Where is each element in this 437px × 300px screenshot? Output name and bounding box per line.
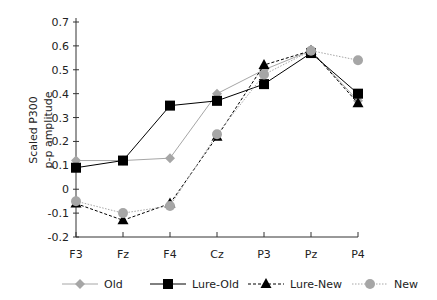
legend-label: Old bbox=[104, 278, 123, 291]
x-tick-label: F3 bbox=[69, 248, 82, 261]
x-tick-label: Fz bbox=[117, 248, 129, 261]
y-axis-label-line: Scaled P300 bbox=[27, 96, 40, 164]
y-tick-label: 0.7 bbox=[52, 16, 70, 29]
series-new bbox=[71, 46, 363, 218]
series-lure-old bbox=[71, 48, 363, 173]
circle-marker bbox=[259, 70, 269, 80]
legend-item-lure-new: Lure-New bbox=[248, 278, 342, 291]
y-tick-label: 0 bbox=[62, 183, 69, 196]
circle-marker bbox=[306, 46, 316, 56]
y-axis-label: Scaled P300p-p amplitude bbox=[27, 91, 55, 168]
y-tick-label: 0.5 bbox=[52, 64, 70, 77]
series-group bbox=[71, 45, 364, 225]
legend-label: Lure-Old bbox=[192, 278, 239, 291]
y-tick-label: -0.1 bbox=[48, 207, 69, 220]
square-marker bbox=[165, 101, 175, 111]
y-tick-label: 0.1 bbox=[52, 159, 70, 172]
series-line bbox=[76, 53, 358, 168]
square-marker bbox=[259, 79, 269, 89]
y-tick-label: 0.3 bbox=[52, 112, 70, 125]
y-axis-label-line: p-p amplitude bbox=[42, 91, 55, 168]
diamond-icon bbox=[75, 279, 85, 289]
legend-label: New bbox=[394, 278, 418, 291]
square-marker bbox=[212, 96, 222, 106]
x-tick-label: Cz bbox=[210, 248, 224, 261]
square-marker bbox=[118, 156, 128, 166]
x-tick-label: P4 bbox=[351, 248, 365, 261]
legend-label: Lure-New bbox=[290, 278, 342, 291]
circle-icon bbox=[365, 279, 375, 289]
y-tick-label: -0.2 bbox=[48, 231, 69, 244]
circle-marker bbox=[71, 196, 81, 206]
diamond-marker bbox=[165, 153, 175, 163]
circle-marker bbox=[353, 55, 363, 65]
triangle-icon bbox=[261, 278, 272, 288]
y-tick-label: 0.6 bbox=[52, 40, 70, 53]
circle-marker bbox=[118, 208, 128, 218]
x-tick-label: Pz bbox=[305, 248, 318, 261]
y-tick-label: 0.4 bbox=[52, 88, 70, 101]
square-icon bbox=[163, 279, 173, 289]
circle-marker bbox=[165, 201, 175, 211]
x-tick-label: F4 bbox=[163, 248, 176, 261]
y-tick-label: 0.2 bbox=[52, 135, 70, 148]
x-tick-label: P3 bbox=[257, 248, 271, 261]
circle-marker bbox=[212, 129, 222, 139]
square-marker bbox=[71, 163, 81, 173]
line-chart: Scaled P300p-p amplitude 0.70.60.50.40.3… bbox=[0, 0, 437, 300]
legend-item-old: Old bbox=[62, 278, 123, 291]
axes: 0.70.60.50.40.30.20.10-0.1-0.2F3FzF4CzP3… bbox=[48, 16, 365, 261]
legend-item-lure-old: Lure-Old bbox=[150, 278, 239, 291]
legend-item-new: New bbox=[352, 278, 418, 291]
square-marker bbox=[353, 89, 363, 99]
legend: OldLure-OldLure-NewNew bbox=[62, 278, 418, 291]
